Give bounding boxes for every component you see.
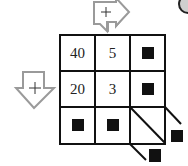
answer-box-r1c3[interactable] xyxy=(142,47,154,59)
left-plus-arrow-icon xyxy=(16,72,54,108)
answer-box-diag-bottom[interactable] xyxy=(149,149,161,162)
corner-circle-icon xyxy=(179,0,188,13)
answer-box-r2c3[interactable] xyxy=(142,83,154,95)
answer-box-r3c2[interactable] xyxy=(107,119,119,131)
top-plus-arrow-icon xyxy=(94,0,129,31)
cell-r2c2: 3 xyxy=(95,71,130,107)
answer-box-r3c1[interactable] xyxy=(72,119,84,131)
cell-r1c1: 40 xyxy=(60,35,95,71)
cell-r1c2: 5 xyxy=(95,35,130,71)
cell-r2c1: 20 xyxy=(60,71,95,107)
answer-box-diag-right[interactable] xyxy=(171,130,183,142)
